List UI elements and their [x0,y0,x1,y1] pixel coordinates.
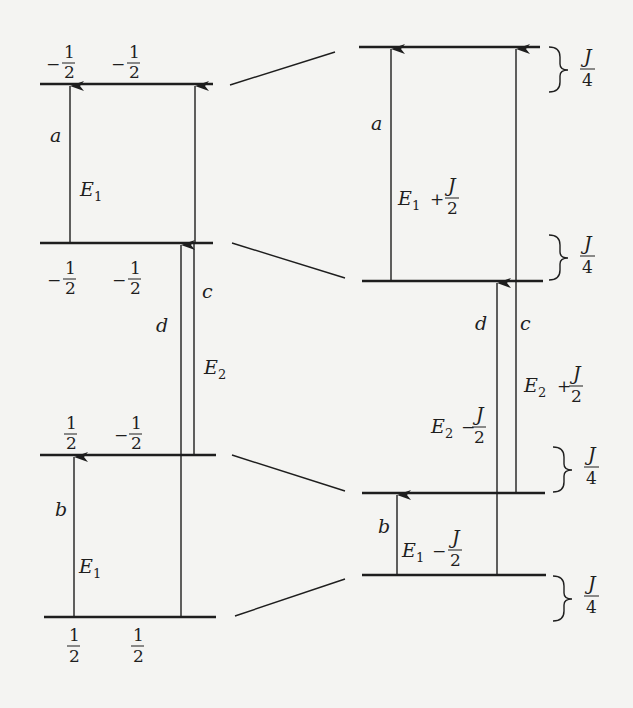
svg-text:2: 2 [131,433,142,453]
label-b-left: b [55,498,67,520]
svg-text:1: 1 [130,258,141,278]
label-a-right: a [371,112,382,134]
brace-icon [549,47,568,92]
svg-text:1: 1 [64,42,75,62]
svg-text:2: 2 [447,198,458,218]
label-a-left: a [50,124,61,146]
svg-text:2: 2 [130,278,141,298]
svg-text:1: 1 [66,413,77,433]
svg-text:−: − [432,541,446,561]
label-E2-plus-J2: E2 + J 2 [523,362,583,406]
label-c-left: c [202,280,213,302]
svg-text:−: − [114,425,128,445]
label-b-right: b [378,515,390,537]
left-transitions [70,86,195,617]
svg-text:2: 2 [571,386,582,406]
svg-text:−: − [47,270,61,290]
label-d-left: d [156,314,168,336]
svg-text:−: − [46,54,60,74]
right-levels [359,47,546,575]
svg-text:1: 1 [133,625,144,645]
brace-icon [553,576,572,621]
svg-text:+: + [430,189,444,209]
energy-level-diagram: − 1 2 − 1 2 − 1 2 − 1 2 1 2 − 1 2 1 2 1 … [0,0,633,708]
svg-text:−: − [111,54,125,74]
svg-text:4: 4 [586,468,597,488]
svg-text:J: J [584,572,597,594]
svg-text:2: 2 [69,646,80,666]
left-levels [40,84,216,617]
svg-text:E2: E2 [523,374,546,400]
svg-text:E1: E1 [397,187,420,213]
svg-text:E2: E2 [430,415,453,441]
svg-text:−: − [112,270,126,290]
svg-text:2: 2 [450,550,461,570]
brace-icon [553,447,572,492]
svg-text:1: 1 [129,42,140,62]
svg-text:1: 1 [131,413,142,433]
svg-text:J: J [448,526,461,548]
label-E1-a-left: E1 [79,178,102,204]
level-connectors [230,52,345,616]
label-E1-b-left: E1 [78,555,101,581]
svg-text:4: 4 [582,70,593,90]
label-E2-minus-J2: E2 − J 2 [430,403,486,447]
svg-text:4: 4 [582,257,593,277]
svg-text:J: J [580,232,593,254]
label-E1-plus-J2: E1 + J 2 [397,174,459,218]
svg-text:2: 2 [129,62,140,82]
right-transitions [391,49,516,575]
label-d-right: d [475,312,487,334]
svg-text:2: 2 [66,433,77,453]
svg-text:2: 2 [133,646,144,666]
svg-text:2: 2 [65,278,76,298]
svg-text:1: 1 [69,625,80,645]
svg-text:2: 2 [64,62,75,82]
left-transition-labels: a E1 d c E2 b E1 [50,124,226,581]
brace-icon [549,235,568,280]
svg-text:4: 4 [586,597,597,617]
right-transition-labels: a E1 + J 2 d c E2 + J 2 E2 − J 2 b E1 − [371,112,583,570]
label-E2-left: E2 [203,356,226,382]
svg-text:1: 1 [65,258,76,278]
svg-text:2: 2 [474,427,485,447]
svg-text:E1: E1 [401,539,424,565]
svg-text:J: J [444,174,457,196]
label-E1-minus-J2: E1 − J 2 [401,526,462,570]
shift-braces: J 4 J 4 J 4 J 4 [549,45,599,621]
svg-text:J: J [580,45,593,67]
svg-text:J: J [584,443,597,465]
label-c-right: c [520,312,531,334]
